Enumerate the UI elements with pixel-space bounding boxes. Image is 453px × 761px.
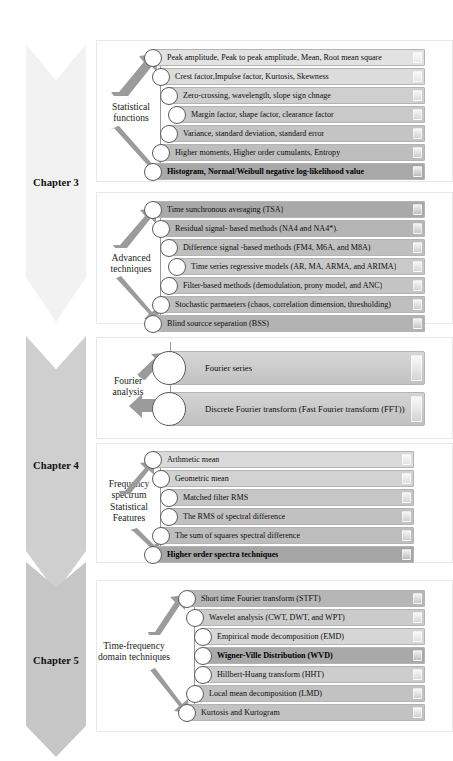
row-cap — [413, 280, 422, 291]
row-label: Empirical mode decomposition (EMD) — [203, 632, 344, 641]
row-bar: Blind sourcce separation (BSS) — [152, 315, 425, 332]
row-label: Arthmetic mean — [153, 455, 219, 464]
row-cap — [413, 669, 422, 680]
row-bar: Local mean decomposition (LMD) — [194, 685, 425, 702]
chapter-label-5: Chapter 5 — [6, 655, 106, 666]
row-cap — [413, 593, 422, 604]
row-cap — [413, 147, 422, 158]
row-label: Crest factor,Impulse factor, Kurtosis, S… — [161, 72, 329, 81]
row-bar: Geometric mean — [160, 470, 414, 487]
row-cap — [413, 631, 422, 642]
row-cap — [402, 454, 411, 465]
row-bar: Empirical mode decomposition (EMD) — [202, 628, 425, 645]
group-label-statistical-functions: Statistical functions — [100, 101, 162, 124]
row-bar: Time series regressive models (AR, MA, A… — [176, 258, 425, 275]
row-label: Variance, standard deviation, standard e… — [169, 129, 324, 138]
row-label: Peak amplitude, Peak to peak amplitude, … — [153, 53, 382, 62]
row-cap — [413, 223, 422, 234]
row-bar: Short time Fourier transform (STFT) — [186, 590, 425, 607]
row-bar: Crest factor,Impulse factor, Kurtosis, S… — [160, 68, 425, 85]
row-bar: Arthmetic mean — [152, 451, 414, 468]
row-label: Matched filter RMS — [169, 493, 248, 502]
row-cap — [413, 261, 422, 272]
row-bar: Higher order spectra techniques — [152, 546, 414, 563]
chapter-label-3: Chapter 3 — [6, 177, 106, 188]
row-label: Zero-crossing, wavelength, slope sign ch… — [169, 91, 331, 100]
row-bar: Zero-crossing, wavelength, slope sign ch… — [168, 87, 425, 104]
row-cap — [413, 242, 422, 253]
row-label: Time sunchronous averaging (TSA) — [153, 205, 283, 214]
row-label: The sum of squares spectral difference — [161, 531, 300, 540]
row-label: Short time Fourier transform (STFT) — [187, 594, 321, 603]
row-cap — [413, 612, 422, 623]
row-bar: Histogram, Normal/Weibull negative log-l… — [152, 163, 425, 180]
row-label: Kurtosis and Kurtogram — [187, 708, 280, 717]
row-bar: Wavelet analysis (CWT, DWT, and WPT) — [194, 609, 425, 626]
row-bar: Stochastic parmaeters (chaos, correlatio… — [160, 296, 425, 313]
row-bar: Margin factor, shape factor, clearance f… — [176, 106, 425, 123]
row-cap — [411, 355, 422, 381]
row-cap — [413, 204, 422, 215]
row-label: Blind sourcce separation (BSS) — [153, 319, 269, 328]
row-cap — [413, 650, 422, 661]
row-bar: Wigner-Ville Distribution (WVD) — [202, 647, 425, 664]
row-label: Difference signal -based methods (FM4, M… — [169, 243, 371, 252]
row-bar: The RMS of spectral difference — [168, 508, 414, 525]
row-label: Discrete Fourier transform (Fast Fourier… — [167, 405, 405, 414]
row-bar: Discrete Fourier transform (Fast Fourier… — [166, 392, 425, 426]
row-label: Higher order spectra techniques — [153, 550, 278, 559]
row-cap — [413, 688, 422, 699]
row-cap — [402, 492, 411, 503]
row-bar: Difference signal -based methods (FM4, M… — [168, 239, 425, 256]
row-label: Wavelet analysis (CWT, DWT, and WPT) — [195, 613, 345, 622]
row-label: Margin factor, shape factor, clearance f… — [177, 110, 334, 119]
row-label: Local mean decomposition (LMD) — [195, 689, 322, 698]
row-label: Residual signal- based methods (NA4 and … — [161, 224, 338, 233]
row-cap — [402, 530, 411, 541]
row-bar: Time sunchronous averaging (TSA) — [152, 201, 425, 218]
row-bar: The sum of squares spectral difference — [160, 527, 414, 544]
row-bar: Matched filter RMS — [168, 489, 414, 506]
chapter-label-4: Chapter 4 — [6, 460, 106, 471]
group-label-frequency-spectrum: Frequency spectrum Statistical Features — [96, 478, 162, 524]
group-label-advanced-techniques: Advanced techniques — [99, 252, 163, 275]
row-cap — [413, 128, 422, 139]
row-label: Hillbert-Huang transform (HHT) — [203, 670, 324, 679]
row-cap — [413, 52, 422, 63]
row-cap — [413, 90, 422, 101]
row-cap — [411, 396, 422, 422]
row-label: Fourier series — [167, 364, 252, 373]
row-bar: Hillbert-Huang transform (HHT) — [202, 666, 425, 683]
row-cap — [413, 299, 422, 310]
chapter-taxonomy-diagram: Chapter 3 Statistical functions Peak amp… — [0, 0, 453, 761]
row-bar: Residual signal- based methods (NA4 and … — [160, 220, 425, 237]
row-cap — [413, 318, 422, 329]
row-bar: Filter-based methods (demodulation, pron… — [168, 277, 425, 294]
row-bar: Higher moments, Higher order cumulants, … — [160, 144, 425, 161]
group-label-time-frequency: Time-frequency domain techniques — [92, 640, 176, 663]
row-label: Stochastic parmaeters (chaos, correlatio… — [161, 300, 391, 309]
row-cap — [413, 71, 422, 82]
row-cap — [413, 166, 422, 177]
row-label: Geometric mean — [161, 474, 229, 483]
row-label: Filter-based methods (demodulation, pron… — [169, 281, 382, 290]
row-label: Histogram, Normal/Weibull negative log-l… — [153, 167, 364, 176]
row-label: The RMS of spectral difference — [169, 512, 285, 521]
row-bar: Kurtosis and Kurtogram — [186, 704, 425, 721]
row-label: Wigner-Ville Distribution (WVD) — [203, 651, 333, 660]
row-cap — [402, 473, 411, 484]
row-bar: Fourier series — [166, 351, 425, 385]
row-label: Time series regressive models (AR, MA, A… — [177, 262, 396, 271]
row-cap — [413, 707, 422, 718]
row-cap — [413, 109, 422, 120]
row-cap — [402, 511, 411, 522]
row-bar: Variance, standard deviation, standard e… — [168, 125, 425, 142]
row-label: Higher moments, Higher order cumulants, … — [161, 148, 340, 157]
group-label-fourier-analysis: Fourier analysis — [99, 375, 157, 398]
row-cap — [402, 549, 411, 560]
row-bar: Peak amplitude, Peak to peak amplitude, … — [152, 49, 425, 66]
